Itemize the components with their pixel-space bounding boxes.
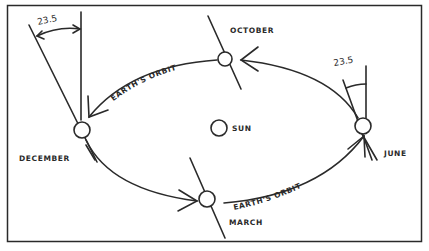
- orbit-arrow-october-to-december: EARTH'S ORBIT: [88, 60, 217, 117]
- earth-globe-icon: [355, 118, 371, 134]
- sun: SUN: [211, 120, 252, 136]
- tilt-angle-label: 23.5: [333, 55, 354, 68]
- march-label: MARCH: [229, 218, 263, 227]
- june-label: JUNE: [383, 149, 407, 158]
- march-earth: [190, 158, 225, 238]
- earth-orbit-diagram: 23.5 DECEMBER OCTOBER SUN 23.5 JUNE: [0, 0, 429, 251]
- sun-label: SUN: [232, 124, 252, 133]
- october-label: OCTOBER: [230, 26, 274, 35]
- earth-globe-icon: [218, 52, 232, 66]
- sun-icon: [211, 120, 227, 136]
- june-earth: [343, 66, 377, 160]
- orbit-arrow-december-to-march: [86, 140, 197, 211]
- earth-globe-icon: [199, 191, 215, 207]
- orbit-label-bottom: EARTH'S ORBIT: [233, 181, 303, 212]
- orbit-label-top: EARTH'S ORBIT: [109, 63, 178, 103]
- tilt-angle-left: 23.5: [36, 13, 80, 39]
- december-label: DECEMBER: [19, 154, 70, 163]
- orbit-arrow-march-to-june: EARTH'S ORBIT: [224, 136, 365, 212]
- earth-globe-icon: [74, 122, 90, 138]
- tilt-angle-label: 23.5: [36, 13, 58, 27]
- tilt-angle-right: 23.5: [333, 55, 366, 88]
